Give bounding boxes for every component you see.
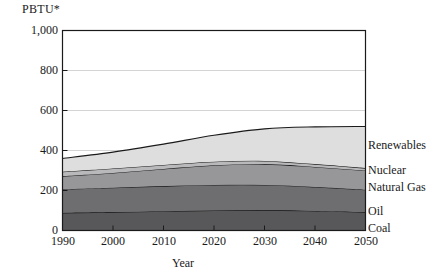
x-tick-2000: 2000 [101, 234, 125, 249]
y-axis-tick-labels: 1,000 800 600 400 200 0 [0, 0, 58, 279]
y-tick-400: 400 [6, 143, 58, 158]
x-tick-2010: 2010 [152, 234, 176, 249]
y-tick-200: 200 [6, 183, 58, 198]
area-band-oil [63, 185, 366, 213]
x-tick-2050: 2050 [354, 234, 378, 249]
y-tick-1000: 1,000 [6, 23, 58, 38]
stacked-area-bands [63, 127, 366, 231]
y-tick-600: 600 [6, 103, 58, 118]
series-label-nuclear: Nuclear [368, 163, 406, 178]
x-tick-2030: 2030 [253, 234, 277, 249]
series-label-natural-gas: Natural Gas [368, 180, 426, 195]
y-tick-800: 800 [6, 63, 58, 78]
chart-figure: PBTU* 1,000 800 600 400 200 0 1990 2000 … [0, 0, 441, 279]
x-tick-2040: 2040 [303, 234, 327, 249]
series-label-coal: Coal [368, 221, 391, 236]
series-label-renewables: Renewables [368, 138, 426, 153]
x-tick-2020: 2020 [202, 234, 226, 249]
x-axis-title: Year [0, 256, 366, 271]
series-label-oil: Oil [368, 204, 383, 219]
x-tick-1990: 1990 [51, 234, 75, 249]
